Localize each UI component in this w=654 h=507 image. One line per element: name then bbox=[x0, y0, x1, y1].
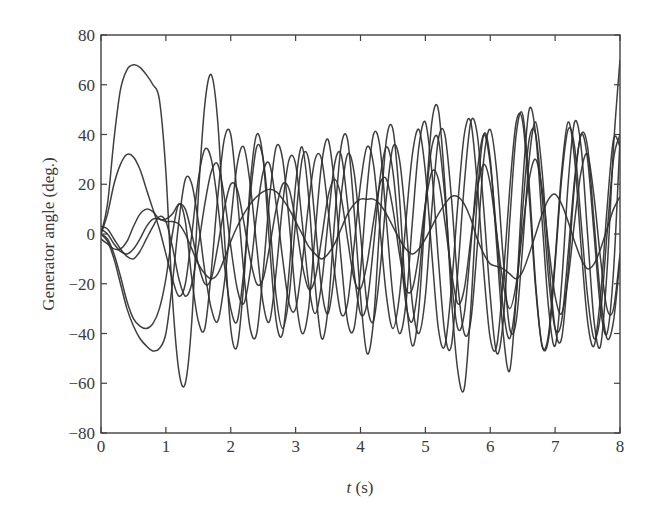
y-tick-label: −80 bbox=[68, 424, 95, 443]
x-tick-label: 6 bbox=[486, 437, 495, 456]
y-tick-label: 40 bbox=[78, 126, 95, 145]
x-tick-label: 5 bbox=[421, 437, 430, 456]
x-axis-title-unit: (s) bbox=[351, 478, 373, 497]
y-tick-label: −20 bbox=[68, 275, 95, 294]
y-axis-title: Generator angle (deg.) bbox=[39, 157, 58, 310]
y-tick-label: 20 bbox=[78, 175, 95, 194]
x-tick-label: 1 bbox=[162, 437, 171, 456]
y-tick-label: 80 bbox=[78, 26, 95, 45]
y-tick-label: 60 bbox=[78, 76, 95, 95]
x-tick-label: 7 bbox=[551, 437, 560, 456]
series-line-generator-2 bbox=[101, 122, 620, 343]
series-layer bbox=[101, 60, 620, 392]
x-axis-title: t (s) bbox=[347, 478, 374, 497]
x-tick-label: 2 bbox=[227, 437, 236, 456]
line-chart: 806040200−20−40−60−80 012345678 Generato… bbox=[0, 0, 654, 507]
x-tick-label: 0 bbox=[97, 437, 106, 456]
y-tick-label: −60 bbox=[68, 374, 95, 393]
x-tick-label: 3 bbox=[291, 437, 300, 456]
x-tick-label: 4 bbox=[356, 437, 365, 456]
x-axis-tick-labels: 012345678 bbox=[97, 437, 625, 456]
y-axis-tick-labels: 806040200−20−40−60−80 bbox=[68, 26, 95, 443]
y-tick-label: 0 bbox=[87, 225, 96, 244]
x-tick-label: 8 bbox=[616, 437, 625, 456]
y-tick-label: −40 bbox=[68, 325, 95, 344]
